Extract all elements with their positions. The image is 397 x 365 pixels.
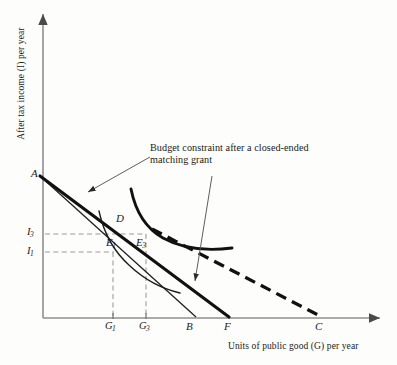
y-tick-label-I1: I1 <box>27 245 34 259</box>
point-label-D: D <box>116 212 124 225</box>
figure-canvas: After tax income (I) per year Units of p… <box>0 0 397 365</box>
point-label-F: F <box>224 320 231 333</box>
budget-line-AB <box>40 176 196 317</box>
x-tick-label-G3-sub: 3 <box>146 324 150 333</box>
budget-line-dashed-to-C <box>152 229 320 316</box>
point-label-B: B <box>186 320 193 333</box>
x-tick-label-G1: G1 <box>105 320 116 334</box>
point-label-E1-sub: 1 <box>112 241 116 250</box>
x-tick-label-G3: G3 <box>139 320 150 334</box>
indifference-curve-I3 <box>131 189 232 249</box>
y-tick-label-I3: I3 <box>27 226 34 240</box>
annotation-leader-left <box>88 157 150 192</box>
point-label-E3-sub: 3 <box>142 241 146 250</box>
point-label-E1: E1 <box>106 236 116 251</box>
y-axis-title: After tax income (I) per year <box>16 14 27 154</box>
x-axis-title: Units of public good (G) per year <box>228 341 358 352</box>
diagram-svg <box>0 0 397 365</box>
point-label-C: C <box>315 320 322 333</box>
annotation-leader-right <box>195 176 212 281</box>
annotation-line-1: Budget constraint after a closed-ended <box>150 142 309 153</box>
point-label-E3: E3 <box>136 236 146 251</box>
x-tick-label-G1-sub: 1 <box>112 324 116 333</box>
y-tick-label-I1-sub: 1 <box>30 249 34 258</box>
annotation-line-2: matching grant <box>150 154 360 166</box>
y-tick-label-I3-sub: 3 <box>30 230 34 239</box>
point-label-A: A <box>31 167 38 180</box>
annotation-text: Budget constraint after a closed-ended m… <box>150 142 360 166</box>
